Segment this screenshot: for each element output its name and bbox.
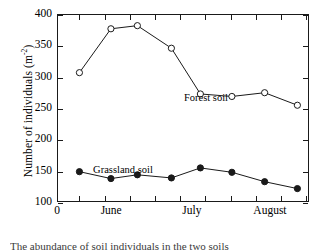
y-axis-tick-right-150 (303, 172, 308, 173)
y-axis-tick-300 (58, 78, 63, 79)
data-point (294, 185, 300, 191)
data-point (168, 45, 174, 51)
x-axis-tick-top-6 (231, 15, 232, 20)
y-axis-label-150: 150 (12, 165, 52, 177)
x-axis-tick-0 (79, 196, 80, 201)
x-axis-tick-8 (281, 196, 282, 201)
data-point (294, 102, 300, 108)
figure-caption: The abundance of soil individuals in the… (10, 240, 321, 251)
x-axis-label-july: July (182, 205, 201, 217)
x-axis-tick-top-1 (105, 15, 106, 20)
plot-area: Forest soil Grassland soil (57, 14, 309, 202)
series-label-grassland-soil: Grassland soil (93, 165, 153, 176)
y-axis-tick-labels: 400350300250200150100 (8, 14, 52, 202)
x-axis-tick-3 (155, 196, 156, 201)
y-axis-tick-150 (58, 172, 63, 173)
x-axis-tick-labels: 0JuneJulyAugust (0, 205, 321, 225)
x-axis-tick-2 (130, 196, 131, 201)
data-point (262, 179, 268, 185)
data-point (108, 26, 114, 32)
x-axis-tick-top-2 (130, 15, 131, 20)
figure: Number of individuals (m-2) 400350300250… (0, 0, 321, 251)
y-axis-label-250: 250 (12, 102, 52, 114)
y-axis-tick-250 (58, 109, 63, 110)
x-axis-tick-6 (231, 196, 232, 201)
x-axis-tick-top-7 (256, 15, 257, 20)
x-axis-label-june: June (101, 205, 122, 217)
y-axis-tick-200 (58, 140, 63, 141)
x-axis-tick-top-5 (205, 15, 206, 20)
x-axis-tick-7 (256, 196, 257, 201)
y-axis-tick-400 (58, 15, 63, 16)
x-axis-tick-top-8 (281, 15, 282, 20)
data-point (229, 169, 235, 175)
y-axis-tick-350 (58, 46, 63, 47)
series-label-forest-soil: Forest soil (184, 93, 228, 104)
data-point (76, 169, 82, 175)
x-axis-tick-top-4 (180, 15, 181, 20)
x-axis-tick-9 (306, 196, 307, 201)
x-axis-tick-5 (205, 196, 206, 201)
y-axis-tick-right-100 (303, 203, 308, 204)
data-point (168, 175, 174, 181)
data-point (76, 70, 82, 76)
x-axis-tick-top-9 (306, 15, 307, 20)
y-axis-tick-right-300 (303, 78, 308, 79)
x-axis-tick-top-0 (79, 15, 80, 20)
y-axis-tick-right-250 (303, 109, 308, 110)
data-point (197, 165, 203, 171)
y-axis-tick-right-200 (303, 140, 308, 141)
data-point (229, 93, 235, 99)
y-axis-label-200: 200 (12, 134, 52, 146)
data-point (262, 90, 268, 96)
y-axis-label-400: 400 (12, 8, 52, 20)
y-axis-label-300: 300 (12, 71, 52, 83)
y-axis-tick-right-350 (303, 46, 308, 47)
data-point (108, 175, 114, 181)
y-axis-label-350: 350 (12, 40, 52, 52)
x-axis-tick-1 (105, 196, 106, 201)
x-axis-tick-top-3 (155, 15, 156, 20)
x-axis-label-0: 0 (54, 205, 60, 217)
x-axis-label-august: August (253, 205, 286, 217)
data-point (134, 23, 140, 29)
x-axis-tick-4 (180, 196, 181, 201)
